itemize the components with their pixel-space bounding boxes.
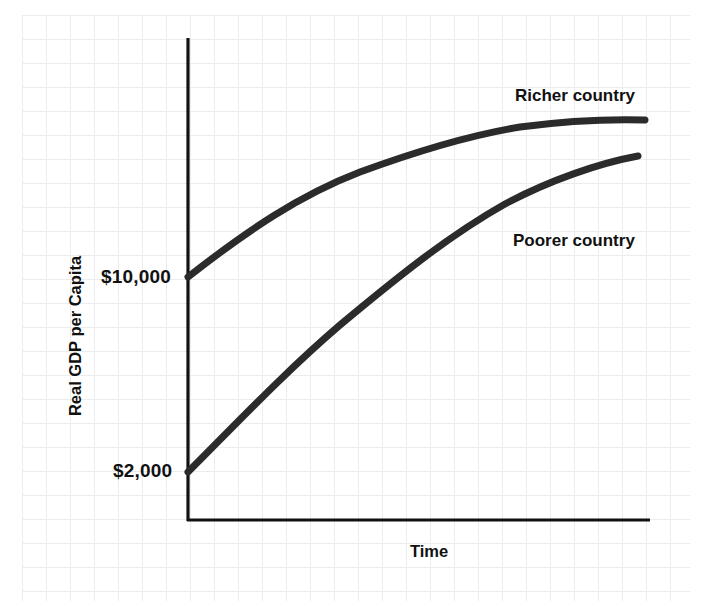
- y-axis-tick-label-2000: $2,000: [113, 461, 172, 480]
- chart-canvas: Real GDP per Capita $10,000 $2,000 Riche…: [0, 0, 708, 613]
- y-axis-tick-label-10000: $10,000: [101, 267, 171, 286]
- y-axis-title-text: Real GDP per Capita: [66, 256, 85, 416]
- series-label-poorer-country: Poorer country: [513, 232, 635, 249]
- series-curve-poorer-country: [188, 156, 638, 472]
- series-curve-richer-country: [188, 120, 645, 277]
- y-axis-title: Real GDP per Capita: [63, 236, 87, 436]
- x-axis-title: Time: [410, 543, 448, 560]
- series-label-richer-country: Richer country: [515, 87, 635, 104]
